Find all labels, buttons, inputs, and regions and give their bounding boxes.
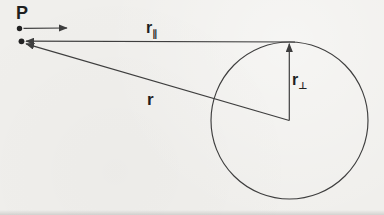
point-p-dot bbox=[17, 26, 22, 31]
r-label: r bbox=[147, 91, 154, 108]
point-p-label: P bbox=[16, 4, 28, 22]
vector-origin-dot bbox=[19, 38, 25, 44]
r-vector-line bbox=[26, 44, 289, 121]
parallel-subscript: ∥ bbox=[152, 28, 156, 39]
vector-decomposition-diagram bbox=[0, 0, 384, 215]
r-parallel-label: r∥ bbox=[146, 20, 156, 39]
r-parallel-vector-line bbox=[26, 41, 295, 42]
perpendicular-subscript: ⊥ bbox=[298, 80, 306, 91]
r-perp-label: r⊥ bbox=[292, 72, 306, 91]
figure-page: P r∥ r r⊥ bbox=[0, 0, 384, 215]
